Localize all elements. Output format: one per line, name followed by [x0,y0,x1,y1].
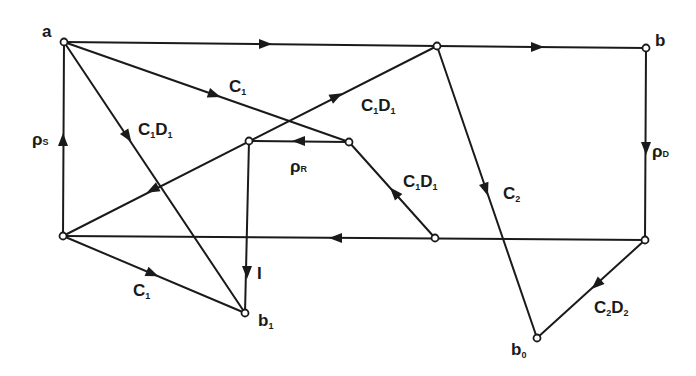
label-c2: C2 [503,184,520,204]
label-rho-s: ρS [32,130,49,149]
edge-itop-b1 [245,141,249,313]
label-i: I [257,264,262,283]
arrow-right-icon [531,42,544,52]
flow-diagram: a b b1 b0 ρS ρD ρR C1 C1D1 C [0,0,696,376]
edge-a-b1 [64,42,245,313]
node-a [61,39,68,46]
arrow-diagonal-icon [207,88,223,102]
node-top-mid [434,43,441,50]
node-b1 [242,310,249,317]
node-left-bot [60,233,67,240]
edge-a-r [64,42,349,142]
label-c1-top: C1 [229,77,246,97]
label-node-b0: b0 [511,340,526,360]
label-c1d1-left: C1D1 [138,120,173,140]
label-rho-r: ρR [290,157,308,176]
label-node-a: a [42,22,52,41]
label-c2d2: C2D2 [594,298,629,318]
node-b0 [534,335,541,342]
edge-rightbot-b0 [537,240,645,338]
label-c1-bottom: C1 [133,281,150,301]
arrow-left-icon [292,136,305,146]
arrow-down-icon [242,266,252,279]
label-rho-d: ρD [652,142,670,161]
node-b [643,45,650,52]
arrow-down-icon [641,142,651,155]
arrow-diagonal-icon [328,89,344,104]
arrow-up-icon [58,133,68,146]
label-c1d1-upper: C1D1 [361,96,396,116]
node-right-bot [642,237,649,244]
node-i-top [246,138,253,145]
label-node-b1: b1 [258,311,273,331]
edge-a-topmid [64,42,437,46]
label-node-b: b [655,31,665,50]
label-c1d1-right: C1D1 [403,172,438,192]
node-r [346,139,353,146]
edge-rightbot-leftbot [63,236,645,240]
arrow-diagonal-icon [145,267,161,281]
arrow-left-icon [329,233,342,243]
arrow-right-icon [259,39,272,49]
labels: a b b1 b0 ρS ρD ρR C1 C1D1 C [32,22,670,360]
arrow-diagonal-icon [479,182,493,198]
node-mid-bot [432,235,439,242]
